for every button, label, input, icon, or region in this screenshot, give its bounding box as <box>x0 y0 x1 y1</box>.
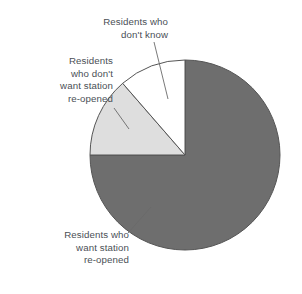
pie-label-dont-know: Residents who don't know <box>60 16 168 41</box>
pie-label-dont-want-station-reopened: Residents who don't want station re-open… <box>4 55 113 105</box>
pie-label-want-station-reopened: Residents who want station re-opened <box>14 229 129 267</box>
pie-chart-figure: Residents who don't know Residents who d… <box>0 0 302 294</box>
